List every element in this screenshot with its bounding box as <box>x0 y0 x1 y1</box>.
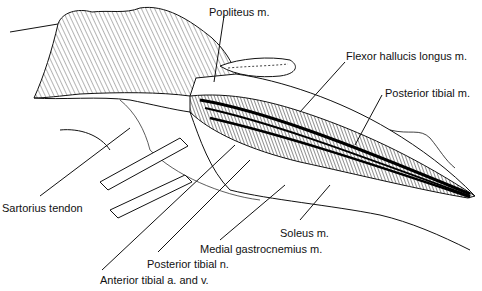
label-flexor-hallucis-longus: Flexor hallucis longus m. <box>346 50 467 62</box>
label-posterior-tibial-muscle: Posterior tibial m. <box>385 87 470 99</box>
label-anterior-tibial-artery-vein: Anterior tibial a. and v. <box>100 274 209 286</box>
label-popliteus: Popliteus m. <box>209 6 270 18</box>
leader-flexor-hallucis <box>300 62 345 112</box>
label-medial-gastrocnemius: Medial gastrocnemius m. <box>200 243 322 255</box>
retractors <box>100 138 192 218</box>
skin-flap-upper <box>10 7 236 98</box>
label-soleus: Soleus m. <box>280 227 329 239</box>
label-posterior-tibial-nerve: Posterior tibial n. <box>147 258 229 270</box>
leader-medial-gastrocnemius <box>220 185 285 240</box>
label-sartorius-tendon: Sartorius tendon <box>2 202 83 214</box>
